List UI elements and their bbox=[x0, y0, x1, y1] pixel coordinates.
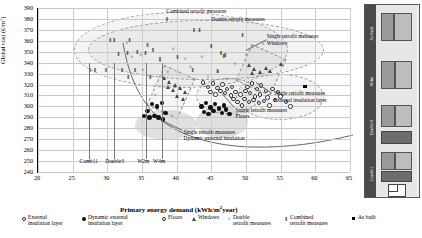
marker-bold-I: ‖ bbox=[240, 33, 244, 37]
reference-line-w4m bbox=[162, 63, 163, 159]
y-gridline bbox=[38, 41, 350, 42]
y-tick-label: 370 bbox=[11, 27, 33, 33]
chart-annotation: External insulation layer bbox=[274, 97, 327, 103]
marker-filled-square bbox=[303, 85, 306, 88]
marker-bold-I: ‖ bbox=[151, 48, 155, 52]
y-tick-label: 390 bbox=[11, 5, 33, 11]
marker-open-circle-small bbox=[220, 82, 224, 86]
legend-label: Dynamic externalinsulation layer bbox=[88, 214, 128, 227]
y-tick-label: 380 bbox=[11, 16, 33, 22]
x-axis-label: Primary energy demand (kWh/m2year) bbox=[120, 205, 238, 214]
chart-annotation: Windows bbox=[267, 40, 287, 46]
y-gridline bbox=[38, 63, 350, 64]
marker-open-circle-small bbox=[238, 92, 242, 96]
marker-bold-I: ‖ bbox=[190, 68, 194, 72]
scatter-chart: Global cost (€/m2) ×××××××××××××××××‖‖‖‖… bbox=[0, 0, 360, 200]
marker-triangle bbox=[250, 71, 254, 75]
y-axis-label: Global cost (€/m2) bbox=[0, 17, 6, 64]
marker-triangle bbox=[173, 83, 177, 87]
marker-open-circle bbox=[251, 98, 255, 102]
legend-marker bbox=[82, 217, 86, 221]
chart-annotation: Single retrofit measures bbox=[184, 129, 236, 135]
panel-cell-as-built bbox=[376, 5, 417, 54]
x-tick-label: 45 bbox=[200, 175, 220, 181]
legend-marker bbox=[22, 217, 26, 221]
y-tick-label: 350 bbox=[11, 49, 33, 55]
panel-label-strip: As builtW4mDouble3Comb11 bbox=[365, 5, 376, 197]
y-tick-label: 250 bbox=[11, 158, 33, 164]
marker-bold-I: ‖ bbox=[116, 52, 120, 56]
marker-filled-circle bbox=[211, 109, 215, 113]
panel-cell-w4m bbox=[376, 53, 417, 102]
y-tick-label: 300 bbox=[11, 103, 33, 109]
y-tick-label: 320 bbox=[11, 82, 33, 88]
marker-open-circle bbox=[258, 92, 262, 96]
marker-filled-circle bbox=[82, 217, 86, 221]
y-tick-label: 330 bbox=[11, 71, 33, 77]
y-gridline bbox=[38, 172, 350, 173]
marker-bold-I: ‖ bbox=[222, 54, 226, 58]
marker-triangle bbox=[268, 69, 272, 73]
x-tick-label: 50 bbox=[235, 175, 255, 181]
marker-x-cross: × bbox=[153, 93, 157, 97]
reference-line-double3 bbox=[114, 63, 115, 159]
y-tick-label: 280 bbox=[11, 125, 33, 131]
marker-filled-circle bbox=[202, 110, 206, 114]
marker-bold-I: ‖ bbox=[215, 69, 219, 73]
y-gridline bbox=[38, 106, 350, 107]
x-gridline bbox=[107, 8, 108, 172]
y-gridline bbox=[38, 117, 350, 118]
x-gridline bbox=[142, 8, 143, 172]
marker-bold-I: ‖ bbox=[120, 68, 124, 72]
y-gridline bbox=[38, 52, 350, 53]
marker-open-circle-small bbox=[162, 217, 166, 221]
building-sections-panel: As builtW4mDouble3Comb11 bbox=[364, 4, 420, 198]
marker-bold-I: ‖ bbox=[192, 28, 196, 32]
marker-triangle bbox=[166, 85, 170, 89]
chart-annotation: Single retrofit measures bbox=[267, 33, 319, 39]
marker-x-cross: × bbox=[224, 77, 228, 81]
marker-x-cross: × bbox=[129, 55, 133, 59]
marker-bold-I: ‖ bbox=[93, 68, 97, 72]
panel-row-label: As built bbox=[369, 11, 374, 57]
marker-x-cross: × bbox=[171, 47, 175, 51]
marker-triangle bbox=[175, 94, 179, 98]
marker-open-circle-small bbox=[206, 85, 210, 89]
marker-bold-I: ‖ bbox=[143, 51, 147, 55]
x-tick-label: 40 bbox=[166, 175, 186, 181]
marker-open-circle-small bbox=[243, 89, 247, 93]
reference-line-label: Comb11 bbox=[80, 158, 98, 164]
y-tick-label: 340 bbox=[11, 60, 33, 66]
marker-x-cross: × bbox=[141, 68, 145, 72]
legend-marker: ‖ bbox=[284, 217, 288, 221]
legend-label: As built bbox=[358, 214, 376, 220]
y-gridline bbox=[38, 74, 350, 75]
marker-open-circle-small bbox=[229, 93, 233, 97]
marker-bold-I: ‖ bbox=[284, 217, 288, 221]
marker-x-cross: × bbox=[227, 217, 231, 221]
y-tick-label: 260 bbox=[11, 147, 33, 153]
x-tick-label: 35 bbox=[131, 175, 151, 181]
reference-line-w2m bbox=[146, 63, 147, 159]
plot-area: ×××××××××××××××××‖‖‖‖‖‖‖‖‖‖‖‖‖‖‖‖‖‖‖‖‖‖‖… bbox=[37, 8, 350, 173]
panel-cell-comb11 bbox=[376, 149, 417, 196]
marker-bold-I: ‖ bbox=[148, 75, 152, 79]
marker-open-circle-small bbox=[201, 80, 205, 84]
reference-line-label: W4m bbox=[153, 158, 165, 164]
marker-bold-I: ‖ bbox=[158, 57, 162, 61]
marker-x-cross: × bbox=[244, 53, 248, 57]
marker-bold-I: ‖ bbox=[112, 38, 116, 42]
marker-triangle bbox=[264, 66, 268, 70]
x-gridline bbox=[73, 8, 74, 172]
legend-label: Externalinsulation layer bbox=[28, 214, 63, 227]
marker-triangle bbox=[258, 70, 262, 74]
x-tick-label: 55 bbox=[270, 175, 290, 181]
marker-triangle bbox=[192, 217, 196, 221]
reference-line-comb11 bbox=[89, 63, 90, 159]
marker-triangle bbox=[183, 90, 187, 94]
panel-row-label: Double3 bbox=[369, 105, 374, 151]
chart-figure: Global cost (€/m2) ×××××××××××××××××‖‖‖‖… bbox=[0, 0, 422, 238]
marker-filled-circle bbox=[163, 111, 167, 115]
chart-annotation: Double retrofit measures bbox=[211, 16, 265, 22]
marker-open-circle-small bbox=[211, 81, 215, 85]
